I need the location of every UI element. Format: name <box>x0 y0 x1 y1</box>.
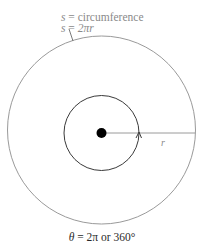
radius-label: r <box>161 138 165 148</box>
formula-label: s = 2πr <box>61 23 94 35</box>
angle-expr: 2π or 360° <box>87 231 136 243</box>
center-dot <box>97 128 107 138</box>
angle-eq: = <box>74 231 86 243</box>
angle-label: θ = 2π or 360° <box>0 232 204 244</box>
formula-expr: 2πr <box>78 22 94 34</box>
formula-eq: = <box>65 22 77 34</box>
diagram-canvas <box>0 0 204 248</box>
unit-circle-diagram: s = circumference s = 2πr r θ = 2π or 36… <box>0 0 204 248</box>
